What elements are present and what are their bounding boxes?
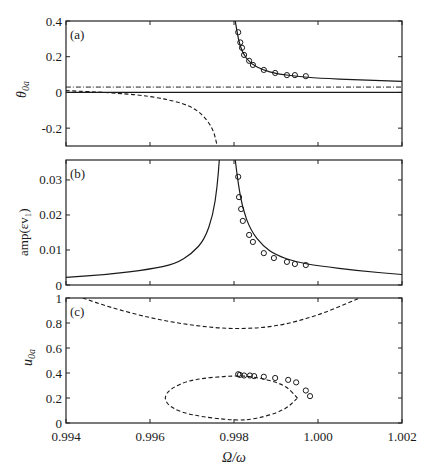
- data-point-circle: [236, 30, 241, 35]
- panel-a-frame: [66, 21, 402, 146]
- data-point-circle: [307, 394, 312, 399]
- panel-a-ylabel: θ0a: [14, 81, 31, 98]
- data-point-circle: [284, 259, 289, 264]
- data-point-circle: [292, 73, 297, 78]
- panel-c-ylabel: u0a: [20, 349, 37, 366]
- x-tick-label: 0.998: [219, 429, 248, 444]
- data-point-circle: [292, 261, 297, 266]
- x-tick-label: 0.996: [135, 429, 165, 444]
- panel-b-label: (b): [70, 166, 85, 181]
- y-tick-label: 0.03: [39, 172, 62, 187]
- panel-b-series: [66, 160, 402, 277]
- y-tick-label: 0.6: [46, 341, 63, 356]
- panel-a: 0.40.20-0.2 (a) θ0a: [14, 14, 402, 147]
- panel-a-series: [66, 21, 402, 146]
- series-dashed-line: [66, 91, 217, 146]
- data-point-circle: [261, 251, 266, 256]
- data-point-circle: [247, 232, 252, 237]
- data-point-circle: [273, 375, 278, 380]
- panel-c: 10.80.60.40.20 (c) u0a 0.9940.9960.9981.…: [20, 291, 417, 466]
- x-tick-labels: 0.9940.9960.9981.0001.002: [51, 429, 416, 444]
- y-tick-label: 0.02: [39, 207, 62, 222]
- panel-a-label: (a): [70, 27, 84, 42]
- series-solid-line: [235, 21, 402, 81]
- figure: 0.40.20-0.2 (a) θ0a 0.030.020.010 (b) am…: [0, 0, 435, 468]
- data-point-circle: [271, 255, 276, 260]
- panel-b-frame: [66, 160, 402, 285]
- y-tick-label: -0.2: [41, 121, 62, 136]
- panel-c-label: (c): [70, 304, 84, 319]
- panel-c-frame: [66, 298, 402, 423]
- y-tick-label: 1: [56, 291, 63, 306]
- panel-b: 0.030.020.010 (b) amp(εv₁): [16, 160, 402, 293]
- y-tick-label: 0: [56, 85, 63, 100]
- x-tick-label: 0.994: [51, 429, 81, 444]
- y-tick-label: 0.4: [46, 366, 63, 381]
- data-point-circle: [240, 218, 245, 223]
- data-point-circle: [303, 388, 308, 393]
- panel-b-ylabel: amp(εv₁): [16, 208, 31, 256]
- panel-c-series: [83, 298, 360, 420]
- y-tick-label: 0.8: [46, 316, 62, 331]
- data-point-circle: [286, 377, 291, 382]
- y-tick-label: 0.2: [46, 391, 62, 406]
- series-dashed-line: [83, 298, 360, 329]
- y-tick-label: 0.4: [46, 14, 63, 29]
- data-point-circle: [294, 380, 299, 385]
- data-point-circle: [250, 239, 255, 244]
- data-point-circle: [303, 74, 308, 79]
- series-dashed-line: [165, 376, 297, 420]
- series-solid-line: [235, 160, 402, 274]
- y-tick-label: 0.2: [46, 49, 62, 64]
- series-solid-line: [66, 160, 219, 277]
- y-tick-label: 0.01: [39, 242, 62, 257]
- x-tick-label: 1.000: [303, 429, 332, 444]
- x-tick-label: 1.002: [387, 429, 416, 444]
- x-axis-title: Ω/ω: [222, 450, 246, 465]
